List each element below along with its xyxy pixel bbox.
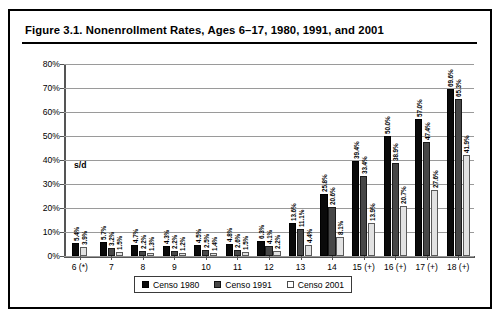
bar: 4.7%: [131, 245, 138, 256]
y-tick-label: 0%: [26, 251, 60, 261]
bar-group: 13.6%11.1%4.4%: [285, 64, 317, 256]
y-axis-labels: 0%10%20%30%40%50%60%70%80%: [24, 64, 60, 256]
plot-area: 5.4%3.9%6 (*)5.7%3.2%1.5%74.7%2.2%1.3%84…: [64, 64, 474, 256]
x-tick-mark: [143, 256, 144, 260]
legend-swatch-icon: [214, 281, 221, 288]
y-tick-label: 80%: [26, 59, 60, 69]
x-tick-label: 9: [172, 262, 177, 272]
bar-value-label: 65.3%: [455, 80, 462, 98]
bar-value-label: 4.7%: [131, 229, 138, 243]
bar: 3.9%: [80, 247, 87, 256]
bar-value-label: 2.5%: [202, 234, 209, 248]
x-tick-mark: [80, 256, 81, 260]
bar: 1.4%: [210, 253, 217, 256]
bar-value-label: 1.2%: [179, 237, 186, 251]
bar-group: 39.4%33.4%13.9%: [348, 64, 380, 256]
bar-group: 50.0%38.9%20.7%: [379, 64, 411, 256]
bar-value-label: 57.0%: [415, 100, 422, 118]
bar: 1.5%: [116, 252, 123, 256]
x-tick-mark: [111, 256, 112, 260]
bar-value-label: 2.2%: [273, 235, 280, 249]
bar: 4.4%: [305, 245, 312, 256]
bar-group: 5.7%3.2%1.5%: [96, 64, 128, 256]
x-tick-label: 15 (+): [352, 262, 374, 272]
bar-value-label: 4.5%: [194, 229, 201, 243]
title-divider: [22, 42, 477, 44]
x-tick-mark: [427, 256, 428, 260]
legend-label: Censo 1980: [153, 280, 199, 290]
bar: 13.6%: [289, 223, 296, 256]
legend-item[interactable]: Censo 1991: [214, 280, 271, 290]
x-tick-label: 13: [296, 262, 305, 272]
bar-value-label: 3.9%: [80, 230, 87, 244]
x-tick-mark: [332, 256, 333, 260]
y-tick-label: 60%: [26, 107, 60, 117]
x-tick-label: 11: [233, 262, 242, 272]
bar: 50.0%: [384, 136, 391, 256]
bar-value-label: 1.5%: [116, 236, 123, 250]
bar-value-label: 41.9%: [463, 136, 470, 154]
bar-group: 4.5%2.5%1.4%: [190, 64, 222, 256]
bar: 38.9%: [392, 163, 399, 256]
legend-label: Censo 1991: [225, 280, 271, 290]
x-tick-mark: [458, 256, 459, 260]
bar-group: 4.7%2.2%1.3%: [127, 64, 159, 256]
bar-value-label: 4.3%: [163, 230, 170, 244]
y-tick-label: 50%: [26, 131, 60, 141]
x-tick-label: 16 (+): [384, 262, 406, 272]
x-tick-mark: [237, 256, 238, 260]
bar: 39.4%: [352, 161, 359, 256]
bar-group: 4.8%2.6%1.5%: [222, 64, 254, 256]
bar-value-label: 47.4%: [423, 123, 430, 141]
bar-value-label: 2.6%: [234, 234, 241, 248]
x-tick-mark: [364, 256, 365, 260]
bar: 25.8%: [320, 194, 327, 256]
bar: 65.3%: [455, 99, 462, 256]
x-tick-label: 18 (+): [447, 262, 469, 272]
x-tick-mark: [301, 256, 302, 260]
bar: 27.6%: [431, 190, 438, 256]
bar-value-label: 5.4%: [72, 227, 79, 241]
bar: 2.2%: [273, 251, 280, 256]
bar-value-label: 69.6%: [447, 69, 454, 87]
x-tick-label: 7: [109, 262, 114, 272]
figure-container: Figure 3.1. Nonenrollment Rates, Ages 6–…: [0, 0, 501, 317]
bar-group: 4.3%2.2%1.2%: [159, 64, 191, 256]
y-tick-mark: [60, 256, 64, 257]
bar-value-label: 5.7%: [100, 226, 107, 240]
bar: 33.4%: [360, 176, 367, 256]
bar-value-label: 20.7%: [400, 187, 407, 205]
bar: 4.5%: [194, 245, 201, 256]
y-tick-label: 10%: [26, 227, 60, 237]
x-tick-mark: [174, 256, 175, 260]
bar-value-label: 11.1%: [297, 210, 304, 227]
bar-value-label: 27.6%: [431, 170, 438, 188]
bar-value-label: 13.9%: [368, 203, 375, 221]
legend-swatch-icon: [142, 281, 149, 288]
bar-value-label: 2.2%: [139, 235, 146, 249]
x-tick-label: 14: [327, 262, 336, 272]
legend-item[interactable]: Censo 1980: [142, 280, 199, 290]
bar-value-label: 2.2%: [171, 235, 178, 249]
bar-value-label: 4.8%: [226, 228, 233, 242]
bar: 20.7%: [400, 206, 407, 256]
bar-value-label: 50.0%: [384, 116, 391, 134]
x-tick-label: 12: [264, 262, 273, 272]
bar: 5.4%: [72, 243, 79, 256]
bar-value-label: 25.8%: [321, 174, 328, 192]
bar-group: 69.6%65.3%41.9%: [442, 64, 474, 256]
x-tick-label: 10: [201, 262, 210, 272]
y-tick-label: 20%: [26, 203, 60, 213]
bar: 1.3%: [147, 253, 154, 256]
bar-value-label: 1.3%: [147, 237, 154, 251]
bar: 8.1%: [336, 237, 343, 256]
bar: 6.3%: [257, 241, 264, 256]
bar: 11.1%: [297, 229, 304, 256]
bar-value-label: 1.5%: [242, 236, 249, 250]
bar-value-label: 1.4%: [210, 236, 217, 250]
bar: 3.2%: [108, 248, 115, 256]
bar: 4.8%: [226, 244, 233, 256]
bar-group: 57.0%47.4%27.6%: [411, 64, 443, 256]
legend-item[interactable]: Censo 2001: [287, 280, 344, 290]
bar-value-label: 3.2%: [108, 232, 115, 246]
